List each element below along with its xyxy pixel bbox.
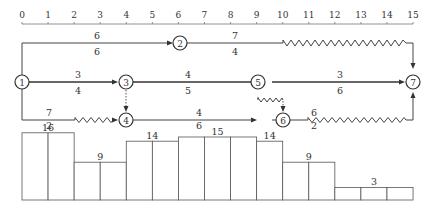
histogram-bar	[387, 187, 413, 200]
time-tick-label: 4	[123, 10, 129, 20]
label-5-7-top: 3	[337, 69, 343, 80]
free-float-wave-2-7	[283, 40, 406, 46]
histogram-bar	[335, 187, 361, 200]
histogram-value-label: 16	[42, 122, 54, 133]
node-2-label: 2	[177, 39, 183, 49]
histogram-bar	[22, 133, 48, 200]
label-1-2-top: 6	[94, 30, 100, 41]
node-5: 5	[251, 75, 265, 89]
time-tick-label: 10	[277, 10, 289, 20]
label-1-3-bottom: 4	[75, 85, 81, 96]
histogram-bar	[361, 187, 387, 200]
arrowhead-icon	[124, 106, 129, 112]
time-tick-label: 11	[303, 10, 314, 20]
histogram-bar	[257, 141, 283, 200]
node-6-label: 6	[280, 116, 286, 126]
label-6-7-top: 6	[311, 107, 317, 118]
activity-2-7-tail	[406, 43, 413, 66]
arrowhead-icon	[112, 80, 118, 85]
node-2: 2	[173, 36, 187, 50]
node-5-label: 5	[255, 78, 261, 88]
node-7: 7	[406, 75, 420, 89]
node-7-label: 7	[410, 78, 416, 88]
time-tick-label: 0	[19, 10, 25, 20]
time-tick-label: 5	[149, 10, 155, 20]
activity-6-7-tail	[406, 96, 413, 120]
time-tick-label: 12	[329, 10, 340, 20]
histogram-value-label: 9	[97, 151, 103, 162]
arrowhead-icon	[251, 118, 257, 123]
arrowhead-icon	[399, 80, 405, 85]
network-diagram: 0123456789101112131415	[0, 0, 433, 214]
time-tick-label: 13	[355, 10, 367, 20]
time-axis: 0123456789101112131415	[19, 10, 419, 24]
histogram-value-label: 14	[264, 130, 276, 141]
label-1-2-bottom: 6	[94, 46, 100, 57]
label-2-7-top: 7	[232, 30, 238, 41]
histogram-bar	[100, 162, 126, 200]
time-tick-label: 15	[407, 10, 419, 20]
arrowhead-icon	[411, 92, 416, 98]
histogram-value-label: 9	[306, 151, 312, 162]
time-tick-label: 3	[97, 10, 103, 20]
histogram-bar	[309, 162, 335, 200]
label-4-6-top: 4	[196, 107, 202, 118]
time-tick-label: 1	[45, 10, 51, 20]
histogram-value-label: 15	[211, 126, 223, 137]
time-tick-label: 2	[71, 10, 77, 20]
histogram-bar	[152, 141, 178, 200]
arrowhead-icon	[411, 63, 416, 69]
label-5-7-bottom: 6	[337, 85, 343, 96]
time-tick-label: 9	[254, 10, 260, 20]
time-tick-label: 6	[176, 10, 182, 20]
node-6: 6	[276, 113, 290, 127]
arrowhead-icon	[167, 41, 173, 46]
histogram-bar	[126, 141, 152, 200]
node-3-label: 3	[123, 78, 129, 88]
free-float-wave-5-6	[258, 98, 283, 102]
node-1-label: 1	[19, 78, 25, 88]
histogram-bar	[74, 162, 100, 200]
time-tick-label: 8	[228, 10, 234, 20]
node-3: 3	[119, 75, 133, 89]
histogram-value-label: 14	[146, 130, 158, 141]
label-3-5-top: 4	[185, 69, 191, 80]
histogram-bar	[283, 162, 309, 200]
time-tick-label: 7	[202, 10, 208, 20]
label-1-3-top: 3	[75, 69, 81, 80]
histogram-value-label: 3	[371, 176, 377, 187]
arrowhead-icon	[281, 106, 286, 112]
label-4-6-bottom: 6	[196, 120, 202, 131]
time-tick-label: 14	[381, 10, 393, 20]
node-1: 1	[15, 75, 29, 89]
histogram-bar	[48, 133, 74, 200]
node-4: 4	[119, 113, 133, 127]
label-2-7-bottom: 4	[232, 46, 238, 57]
histogram-bar	[231, 137, 257, 200]
label-3-5-bottom: 5	[185, 85, 191, 96]
free-float-wave-6-7	[308, 118, 406, 123]
histogram-bar	[178, 137, 204, 200]
label-6-7-bottom: 2	[311, 120, 317, 131]
histogram-bar	[204, 137, 230, 200]
resource-histogram: 16914151493	[22, 122, 413, 200]
free-float-wave-1-4	[75, 118, 113, 123]
arrowhead-icon	[112, 118, 118, 123]
label-1-4-top: 7	[46, 107, 52, 118]
activity-arrows	[22, 40, 416, 123]
node-4-label: 4	[123, 116, 129, 126]
activity-labels: 6 6 7 4 3 4 4 5 3 6 7 2 4 6 6 2	[46, 30, 343, 131]
